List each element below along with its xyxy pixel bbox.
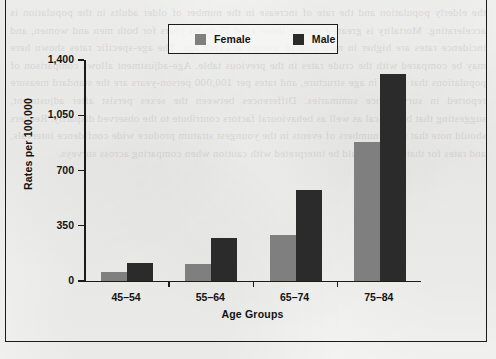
bar-male-45-54 [127, 263, 153, 281]
x-axis-title: Age Groups [84, 308, 421, 320]
y-axis-tick-label: 350 [56, 219, 74, 231]
bar-female-45-54 [101, 272, 127, 281]
y-axis-tick-labels: 03507001,0501,400 [0, 0, 74, 359]
y-axis-tick [78, 115, 84, 116]
x-axis-category-label: 75–84 [337, 291, 421, 303]
legend-swatch-icon-female [195, 34, 206, 45]
x-axis-category-label: 55–64 [168, 291, 252, 303]
legend-label-female: Female [214, 33, 251, 45]
y-axis-tick [78, 225, 84, 226]
y-axis-tick [78, 170, 84, 171]
x-axis-category-label: 45–54 [84, 291, 168, 303]
bar-female-75-84 [354, 142, 380, 281]
legend-item-male: Male [293, 33, 336, 45]
bar-male-75-84 [380, 74, 406, 281]
legend-swatch-icon-male [293, 34, 304, 45]
y-axis-tick [78, 280, 84, 281]
bar-male-65-74 [296, 190, 322, 281]
x-axis-tick [253, 281, 254, 287]
x-axis-tick [337, 281, 338, 287]
y-axis-tick [78, 59, 84, 60]
y-axis-tick-label: 700 [56, 164, 74, 176]
y-axis-tick-label: 1,050 [48, 108, 74, 120]
y-axis-tick-label: 0 [68, 274, 74, 286]
bar-chart: Female Male 03507001,0501,400 Rates per … [0, 0, 496, 359]
bar-female-55-64 [185, 264, 211, 281]
y-axis-tick-label: 1,400 [48, 53, 74, 65]
bar-male-55-64 [211, 238, 237, 281]
legend-label-male: Male [312, 33, 336, 45]
bar-female-65-74 [270, 235, 296, 281]
x-axis-tick [168, 281, 169, 287]
chart-legend: Female Male [168, 24, 338, 54]
legend-item-female: Female [195, 33, 251, 45]
y-axis-title: Rates per 100,000 [22, 89, 34, 199]
x-axis-category-label: 65–74 [253, 291, 337, 303]
bar-group-container [84, 60, 421, 281]
